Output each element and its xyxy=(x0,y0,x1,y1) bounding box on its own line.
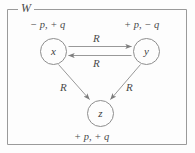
edge-label-y-to-z: R xyxy=(126,81,133,93)
edge-label-x-to-z: R xyxy=(60,81,67,93)
node-x[interactable]: x xyxy=(40,38,67,65)
node-y[interactable]: y xyxy=(133,38,160,65)
node-x-label: x xyxy=(41,39,66,64)
edge-label-x-to-y: R xyxy=(93,32,100,44)
valuation-z: + p, + q xyxy=(74,131,109,143)
frame-label-w: W xyxy=(21,1,31,15)
valuation-x: − p, + q xyxy=(30,19,65,31)
diagram-canvas: W x y z − p, + q + p, − q + p, + q R R R… xyxy=(0,0,195,153)
node-z-label: z xyxy=(88,101,113,126)
edge-label-y-to-x: R xyxy=(93,57,100,69)
node-z[interactable]: z xyxy=(87,100,114,127)
node-y-label: y xyxy=(134,39,159,64)
valuation-y: + p, − q xyxy=(124,19,159,31)
